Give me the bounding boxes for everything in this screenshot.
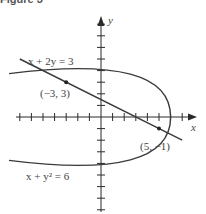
y-axis — [97, 16, 105, 212]
x-axis-arrow-icon — [188, 114, 197, 121]
x-axis-label: x — [190, 121, 196, 133]
line-equation-label: x + 2y = 3 — [28, 55, 74, 67]
point-label-2: (5, −1) — [140, 140, 170, 153]
point-label-1: (−3, 3) — [40, 87, 70, 100]
intersection-point-1 — [64, 80, 68, 84]
y-axis-label: y — [107, 14, 113, 26]
graph: y x x + 2y = 3 x + y² = 6 (−3, 3) (5, −1… — [0, 0, 206, 214]
intersection-point-2 — [157, 127, 161, 131]
parabola-equation-label: x + y² = 6 — [26, 170, 70, 182]
